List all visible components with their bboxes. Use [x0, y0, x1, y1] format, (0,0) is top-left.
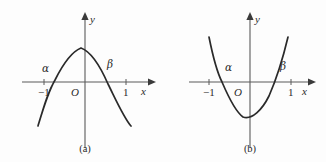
panel-b-y-axis-arrowhead: [246, 12, 253, 20]
panel-a-y-axis-arrowhead: [81, 12, 88, 20]
panel-a-y-axis-label: y: [89, 13, 95, 25]
panel-b-y-axis-label: y: [254, 13, 260, 25]
panel-b-x-axis-arrowhead: [308, 78, 316, 85]
panel-a-beta-label: β: [106, 58, 113, 70]
panel-b-x-axis-label: x: [301, 85, 307, 97]
panel-a-tick-label-one: 1: [123, 86, 129, 98]
parabola-figure-svg: α β −1 1 O x y (a) α β −1: [0, 0, 326, 162]
panel-a-tick-label-minus-one: −1: [38, 86, 50, 98]
panel-b-tick-label-minus-one: −1: [203, 86, 215, 98]
panel-b-origin-label: O: [234, 86, 242, 98]
panel-a-origin-label: O: [71, 86, 79, 98]
panel-b-tick-label-one: 1: [288, 86, 294, 98]
panel-a-caption: (a): [79, 143, 91, 155]
panel-a-x-axis-label: x: [140, 85, 146, 97]
panel-a-x-axis-arrowhead: [148, 78, 156, 85]
panel-b: α β −1 1 O x y (b): [189, 12, 316, 155]
figure-container: α β −1 1 O x y (a) α β −1: [0, 0, 326, 162]
panel-a: α β −1 1 O x y (a): [22, 12, 156, 155]
panel-b-parabola-curve: [209, 37, 288, 118]
panel-a-alpha-label: α: [42, 62, 49, 74]
panel-b-caption: (b): [244, 143, 257, 155]
panel-b-alpha-label: α: [225, 61, 232, 73]
panel-b-beta-label: β: [279, 60, 286, 72]
